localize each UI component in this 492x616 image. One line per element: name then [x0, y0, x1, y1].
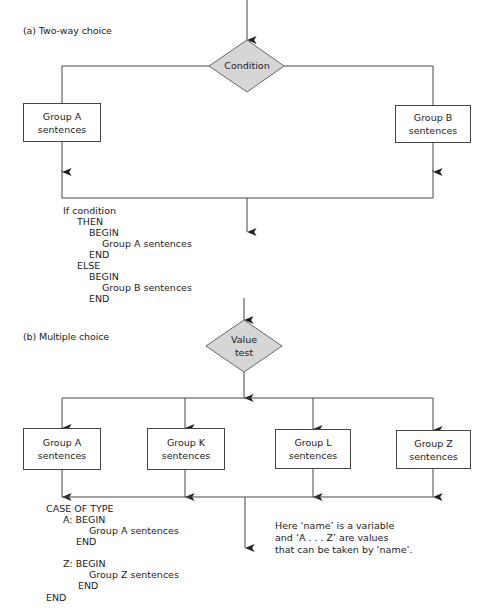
decision-line: test — [206, 346, 282, 359]
group-l-box: Group L sentences — [275, 429, 351, 469]
group-k-box: Group K sentences — [147, 428, 225, 470]
box-line: Group L — [294, 436, 331, 449]
note-line: that can be taken by ‘name’. — [275, 544, 413, 556]
group-a-box-two-way: Group A sentences — [23, 103, 101, 142]
box-line: sentences — [289, 449, 337, 462]
box-line: Group B — [414, 111, 452, 124]
group-z-box: Group Z sentences — [396, 430, 471, 469]
part-b-title: (b) Multiple choice — [23, 331, 109, 342]
code-line: A: BEGIN — [63, 514, 105, 525]
code-line: END — [46, 592, 66, 603]
code-line: If condition — [63, 205, 116, 216]
box-line: sentences — [38, 123, 86, 136]
box-line: sentences — [409, 450, 457, 463]
box-line: Group A — [43, 436, 81, 449]
box-line: sentences — [38, 449, 86, 462]
code-line: BEGIN — [89, 271, 119, 282]
group-b-box-two-way: Group B sentences — [395, 105, 471, 143]
box-line: Group A — [43, 110, 81, 123]
code-line: Group A sentences — [89, 525, 179, 536]
note-line: and ‘A . . . Z’ are values — [275, 532, 413, 544]
group-a-box-multi: Group A sentences — [23, 428, 101, 470]
code-line: CASE OF TYPE — [46, 503, 113, 514]
code-line: Group A sentences — [102, 238, 192, 249]
code-line: THEN — [77, 216, 103, 227]
part-a-title: (a) Two-way choice — [23, 25, 112, 36]
decision-label-value-test: Value test — [206, 333, 282, 359]
code-line: Group B sentences — [102, 282, 192, 293]
code-line: END — [78, 580, 98, 591]
code-line: END — [89, 249, 109, 260]
variable-note: Here ‘name’ is a variable and ‘A . . . Z… — [275, 520, 413, 556]
box-line: Group Z — [414, 437, 452, 450]
box-line: sentences — [409, 124, 457, 137]
code-line: END — [76, 536, 96, 547]
note-line: Here ‘name’ is a variable — [275, 520, 413, 532]
code-line: ELSE — [77, 260, 100, 271]
box-line: Group K — [167, 436, 205, 449]
code-line: BEGIN — [89, 227, 119, 238]
code-line: Z: BEGIN — [63, 558, 106, 569]
code-line: Group Z sentences — [89, 569, 179, 580]
decision-line: Value — [206, 333, 282, 346]
decision-label-condition: Condition — [209, 59, 285, 72]
box-line: sentences — [162, 449, 210, 462]
code-line: END — [89, 293, 109, 304]
